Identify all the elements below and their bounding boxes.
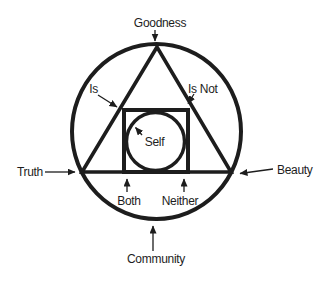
label-community: Community — [127, 252, 185, 266]
label-goodness: Goodness — [134, 16, 187, 30]
diagram-canvas: Goodness Truth Beauty Community Is Is No… — [0, 0, 327, 281]
label-both: Both — [117, 194, 141, 208]
beauty-arrow-icon — [240, 169, 273, 174]
label-neither: Neither — [162, 194, 199, 208]
shape-group — [72, 44, 241, 219]
label-is-not: Is Not — [188, 82, 219, 96]
label-truth: Truth — [17, 165, 43, 179]
outer-circle — [72, 44, 241, 219]
self-arrow-icon — [136, 128, 143, 136]
label-group: Goodness Truth Beauty Community Is Is No… — [17, 16, 313, 266]
label-is: Is — [89, 82, 98, 96]
philosophy-tetralemma-diagram: Goodness Truth Beauty Community Is Is No… — [0, 0, 327, 281]
is-arrow-icon — [98, 95, 117, 107]
label-beauty: Beauty — [277, 163, 313, 177]
label-self: Self — [145, 135, 165, 149]
